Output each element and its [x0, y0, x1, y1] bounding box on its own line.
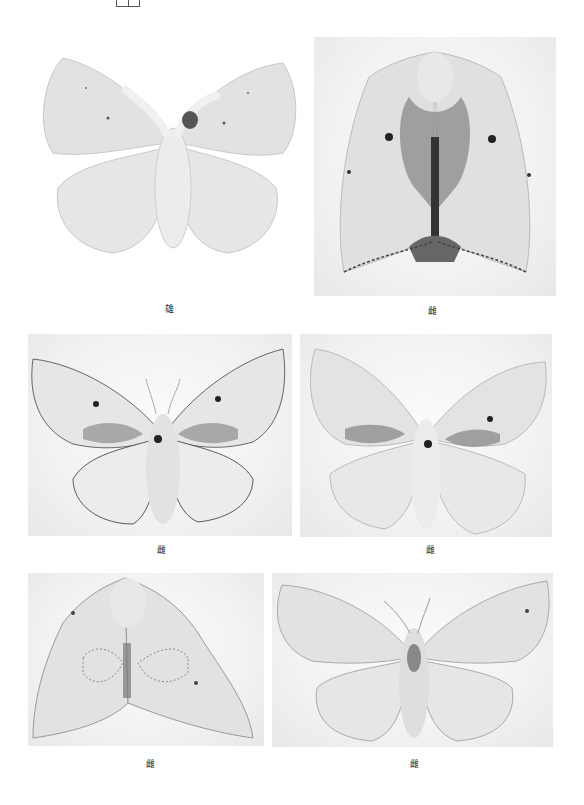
moth-illustration	[28, 334, 292, 536]
moth-illustration	[28, 573, 264, 746]
moth-illustration	[38, 48, 300, 268]
caption-specimen-4: 雌	[420, 543, 440, 556]
moth-photo-female-folded-2	[28, 573, 264, 746]
moth-photo-male-spread	[38, 48, 300, 268]
moth-photo-female-spread-3	[272, 573, 553, 747]
caption-specimen-6: 雌	[404, 757, 424, 770]
moth-photo-female-spread-1	[28, 334, 292, 536]
caption-specimen-2: 雌	[422, 304, 442, 317]
moth-illustration	[272, 573, 553, 747]
moth-illustration	[300, 334, 552, 537]
moth-photo-female-folded	[314, 37, 556, 296]
moth-illustration	[314, 37, 556, 296]
caption-specimen-5: 雌	[140, 757, 160, 770]
moth-photo-female-spread-2	[300, 334, 552, 537]
caption-specimen-3: 雌	[151, 543, 171, 556]
caption-specimen-1: 雄	[159, 302, 179, 315]
page-layout-icon	[116, 0, 140, 7]
header-strip	[0, 0, 584, 8]
